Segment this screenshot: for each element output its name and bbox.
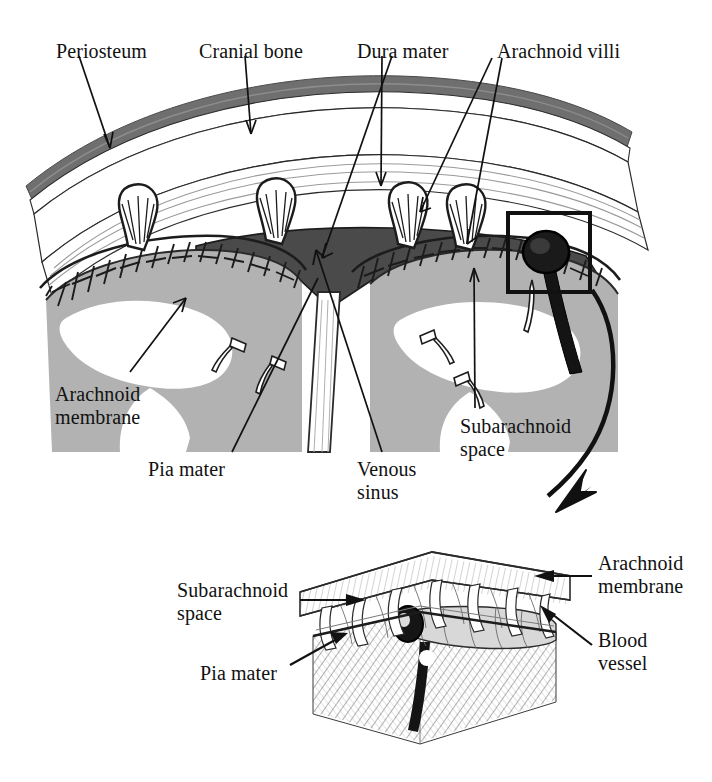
label-inset-blood-vessel: Blood vessel (598, 629, 647, 675)
label-arachnoid-membrane: Arachnoid membrane (55, 383, 140, 429)
label-cranial-bone: Cranial bone (199, 40, 303, 63)
label-pia-mater: Pia mater (148, 458, 225, 481)
falx-cerebri (308, 292, 340, 452)
inset-illustration (290, 545, 580, 760)
leader-dura-1 (381, 56, 382, 186)
leader-subarachnoid-space (474, 268, 475, 408)
meninges-figure: Periosteum Cranial bone Dura mater Arach… (0, 0, 712, 782)
leader-inset-vessel (552, 614, 592, 645)
label-arachnoid-villi: Arachnoid villi (497, 40, 620, 63)
label-inset-pia-mater: Pia mater (200, 662, 277, 685)
label-inset-arachnoid-membrane: Arachnoid membrane (598, 552, 683, 598)
label-subarachnoid-space: Subarachnoid space (460, 415, 571, 461)
leader-periosteum (79, 56, 110, 148)
label-periosteum: Periosteum (56, 40, 147, 63)
label-inset-subarachnoid-space: Subarachnoid space (177, 579, 288, 625)
inset-vessel-highlight (419, 650, 435, 666)
label-venous-sinus: Venous sinus (357, 458, 417, 504)
label-dura-mater: Dura mater (357, 40, 449, 63)
